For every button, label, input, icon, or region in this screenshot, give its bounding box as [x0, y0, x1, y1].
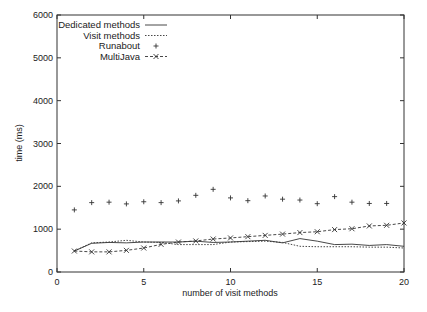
line-chart: 0100020003000400050006000 05101520 Dedic… [0, 0, 427, 312]
legend-label: MultiJava [100, 51, 141, 62]
x-tick-label: 10 [225, 277, 235, 287]
x-tick-label: 5 [141, 277, 146, 287]
y-tick-label: 3000 [33, 139, 53, 149]
y-tick-label: 0 [48, 267, 53, 277]
y-tick-label: 1000 [33, 224, 53, 234]
legend-label: Visit methods [83, 30, 140, 41]
y-tick-label: 4000 [33, 96, 53, 106]
y-tick-label: 2000 [33, 181, 53, 191]
chart-background [0, 0, 427, 312]
y-tick-label: 6000 [33, 10, 53, 20]
x-axis-label: number of visit methods [182, 288, 278, 298]
legend-label: Dedicated methods [58, 19, 140, 30]
x-tick-label: 0 [54, 277, 59, 287]
y-tick-label: 5000 [33, 53, 53, 63]
y-axis-label: time (ms) [14, 124, 24, 162]
x-tick-label: 15 [312, 277, 322, 287]
x-tick-label: 20 [399, 277, 409, 287]
legend-label: Runabout [99, 40, 141, 51]
